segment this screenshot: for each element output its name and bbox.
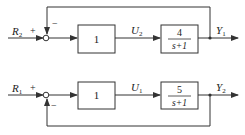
- top-gain-block-label: 1: [94, 33, 100, 45]
- bottom-tf-denominator: s+1: [172, 98, 187, 108]
- bottom-gain-block-label: 1: [94, 89, 100, 101]
- bottom-summing-junction: [43, 92, 49, 98]
- top-summing-junction: [43, 35, 49, 41]
- bottom-input-label: R1: [11, 82, 23, 96]
- top-intermediate-label: U2: [131, 24, 143, 38]
- bottom-feedback-loop: R1 + − 1 U1 5 s+1 Y2: [8, 81, 238, 126]
- top-plus-sign: +: [30, 25, 36, 36]
- top-output-label: Y1: [216, 24, 226, 38]
- top-minus-sign: −: [52, 18, 58, 29]
- top-feedback-loop: R2 + − 1 U2 4 s+1 Y1: [8, 7, 238, 53]
- top-tf-numerator: 4: [177, 27, 182, 38]
- bottom-plus-sign: +: [30, 82, 36, 93]
- bottom-intermediate-label: U1: [131, 81, 143, 95]
- bottom-minus-sign: −: [51, 100, 57, 111]
- top-input-label: R2: [11, 25, 23, 39]
- block-diagram-canvas: R2 + − 1 U2 4 s+1 Y1 R1 + −: [0, 0, 245, 135]
- top-tf-denominator: s+1: [172, 41, 187, 51]
- bottom-output-label: Y2: [216, 81, 226, 95]
- bottom-tf-numerator: 5: [177, 84, 182, 95]
